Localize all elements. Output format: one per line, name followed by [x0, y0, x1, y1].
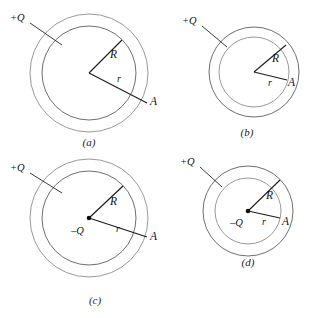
- panel-d-radius-R-line: [248, 180, 280, 211]
- panel-b-point-A-label: A: [287, 76, 296, 88]
- panel-a-caption: (a): [68, 136, 110, 148]
- panel-d-point-A-label: A: [281, 215, 290, 227]
- physics-figure: +Q R r A (a): [0, 0, 316, 318]
- panel-c-outer-charge-label: +Q: [10, 162, 25, 173]
- panel-b-radius-R-line: [254, 45, 286, 72]
- panel-c-center-point-charge: [87, 216, 92, 221]
- panel-b-charge-leader: [202, 26, 227, 47]
- panel-a-outer-charge-label: +Q: [10, 12, 25, 23]
- panel-d-center-charge-label: –Q: [229, 217, 243, 228]
- panel-d-outer-charge-label: +Q: [180, 156, 195, 167]
- panel-d-radius-r-label: r: [262, 216, 266, 227]
- panel-c-radius-r-label: r: [116, 223, 120, 234]
- panel-b-radius-r-label: r: [268, 77, 272, 88]
- panel-c-center-charge-label: –Q: [70, 225, 84, 236]
- panel-c-caption: (c): [74, 294, 116, 306]
- panel-a-radius-R-line: [89, 40, 122, 73]
- panel-c-point-A-label: A: [149, 230, 158, 242]
- panel-b-outer-charge-label: +Q: [182, 15, 197, 26]
- panel-d-caption: (d): [227, 256, 269, 268]
- panel-a-charge-leader: [30, 23, 62, 45]
- panel-c-radius-R-label: R: [109, 195, 117, 207]
- panel-c-radius-R-line: [89, 186, 123, 218]
- panel-a-point-A-label: A: [149, 95, 158, 107]
- panel-b-caption: (b): [226, 126, 268, 138]
- panel-c: +Q R r –Q A: [0, 155, 176, 300]
- panel-d-center-point-charge: [246, 209, 251, 214]
- panel-a-radius-R-label: R: [109, 48, 117, 60]
- panel-d-radius-R-label: R: [265, 189, 273, 201]
- panel-a-radius-r-label: r: [117, 73, 121, 84]
- panel-a: +Q R r A: [0, 0, 176, 150]
- panel-b-radius-R-label: R: [271, 52, 279, 64]
